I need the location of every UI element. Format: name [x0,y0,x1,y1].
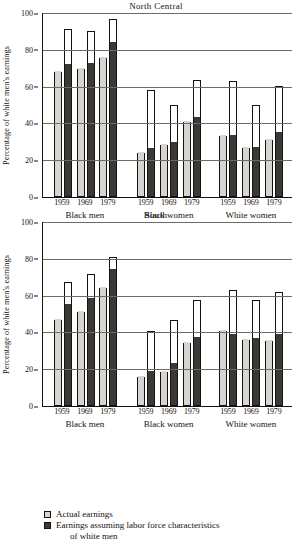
chart-title-north-central: North Central [0,0,294,13]
plot-canvas-south [42,222,292,407]
bar-actual-earnings [183,343,191,406]
gridline [43,160,292,161]
legend-label-line1: Earnings assuming labor force characteri… [56,520,219,530]
chart-panel-south: South Percentage of white men's earnings… [0,209,294,418]
y-tick-label: 40 [25,119,33,128]
x-axis-group-names-south: Black menBlack womenWhite women [42,419,292,429]
bar-adjusted-earnings [109,19,117,197]
gridline [43,87,292,88]
bar-fill [138,152,144,196]
bar-pair [97,13,120,197]
bar-fill [138,376,144,405]
bar-actual-earnings [265,341,273,406]
bar-pair [217,13,240,197]
y-tick-label: 0 [29,193,33,202]
bar-fill [148,371,154,405]
y-tick-mark [34,87,38,88]
y-tick-mark [34,50,38,51]
x-year-group: 195919691979 [210,198,292,207]
x-year-group: 195919691979 [42,198,128,207]
x-year-label: 1959 [50,198,73,207]
x-axis-south: 195919691979195919691979195919691979 Bla… [42,407,292,433]
x-year-label: 1969 [73,407,96,416]
bar-fill [253,147,259,196]
bar-pair [262,13,285,197]
y-axis-ticks-south: 100806040200 [14,222,38,406]
x-year-label: 1959 [216,407,239,416]
bar-actual-earnings [219,136,227,197]
y-tick-mark [34,259,38,260]
bar-groups-north-central [43,13,292,197]
bar-pair [158,13,181,197]
bar-fill [110,269,116,405]
bar-pair [240,13,263,197]
x-year-label: 1959 [134,198,157,207]
gridline [43,50,292,51]
y-tick-label: 60 [25,82,33,91]
bar-actual-earnings [160,372,168,406]
bar-actual-earnings [77,312,85,406]
bar-actual-earnings [54,72,62,197]
bar-adjusted-earnings [252,300,260,406]
x-group-name: Black women [128,419,210,429]
y-tick-label: 20 [25,365,33,374]
bar-fill [88,298,94,405]
bar-group [128,13,210,197]
bar-pair [181,13,204,197]
x-axis-years-north-central: 195919691979195919691979195919691979 [42,198,292,207]
gridline [43,222,292,223]
x-year-label: 1979 [180,407,203,416]
bar-fill [65,64,71,196]
bar-fill [100,57,106,196]
x-year-label: 1979 [262,198,285,207]
bar-pair [51,222,74,406]
y-axis-ticks-north-central: 100806040200 [14,13,38,197]
bar-actual-earnings [160,145,168,197]
bar-adjusted-earnings [87,31,95,197]
legend-item: Earnings assuming labor force characteri… [44,520,294,541]
bar-adjusted-earnings [64,29,72,197]
bar-group [128,222,210,406]
bar-actual-earnings [265,140,273,197]
gridline [43,332,292,333]
plot-area-south: Percentage of white men's earnings 10080… [0,222,294,418]
x-year-label: 1969 [239,198,262,207]
legend: Actual earningsEarnings assuming labor f… [44,509,294,543]
legend-item: Actual earnings [44,509,294,520]
bar-fill [266,139,272,196]
x-year-label: 1979 [96,198,119,207]
bar-pair [74,13,97,197]
bar-adjusted-earnings [193,80,201,197]
bar-fill [220,330,226,405]
bar-adjusted-earnings [229,81,237,197]
y-axis-label-south: Percentage of white men's earnings [0,222,13,406]
legend-label: Actual earnings [56,509,113,520]
bar-actual-earnings [137,377,145,406]
bar-fill [65,304,71,405]
bar-fill [110,42,116,196]
bar-group [43,13,128,197]
x-year-label: 1969 [239,407,262,416]
x-year-label: 1969 [73,198,96,207]
bar-pair [158,222,181,406]
x-year-label: 1979 [262,407,285,416]
bar-fill [194,117,200,196]
bar-actual-earnings [77,69,85,197]
y-tick-mark [34,13,38,14]
bar-fill [220,135,226,196]
bar-fill [88,63,94,196]
x-year-label: 1959 [134,407,157,416]
bar-fill [100,287,106,405]
bar-adjusted-earnings [275,86,283,197]
bar-group [210,222,292,406]
bar-fill [194,337,200,405]
bar-pair [51,13,74,197]
x-year-label: 1959 [216,198,239,207]
gridline [43,296,292,297]
bar-group [210,13,292,197]
bar-fill [171,142,177,196]
plot-canvas-north-central [42,13,292,198]
gridline [43,13,292,14]
bar-pair [74,222,97,406]
legend-label-line2: of white men [56,531,219,542]
